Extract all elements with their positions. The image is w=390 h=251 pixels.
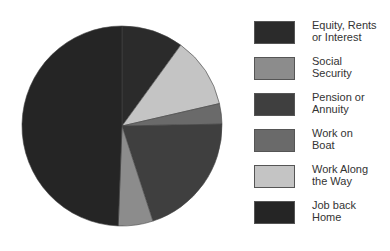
legend-swatch [254,57,295,80]
legend-swatch [254,93,295,116]
legend-item-work-on-boat: Work onBoat [254,129,390,159]
legend-item-job-back-home: Job backHome [254,201,390,231]
legend-label: Pension orAnnuity [312,92,390,115]
legend-label: Work Alongthe Way [312,164,390,187]
legend-item-pension: Pension orAnnuity [254,93,390,123]
legend-item-social-security: SocialSecurity [254,57,390,87]
legend-label: Equity, Rentsor Interest [312,20,390,43]
legend-label: Job backHome [312,200,390,223]
pie-slice-job-back-home [22,26,122,226]
legend-label: SocialSecurity [312,56,390,79]
pie-chart [0,0,245,251]
legend-label: Work onBoat [312,128,390,151]
legend-swatch [254,21,295,44]
legend-item-work-along-the-way: Work Alongthe Way [254,165,390,195]
legend-swatch [254,129,295,152]
legend-item-equity: Equity, Rentsor Interest [254,21,390,51]
legend-swatch [254,165,295,188]
legend-swatch [254,201,295,224]
